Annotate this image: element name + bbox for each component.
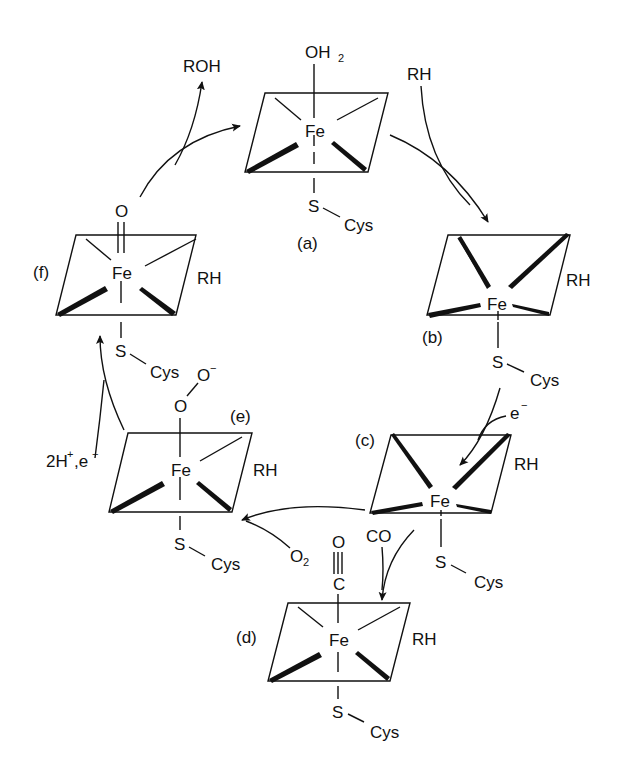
arrow-protons-in [95, 380, 104, 458]
state-label-d: (d) [236, 628, 257, 647]
svg-text:2: 2 [303, 556, 309, 568]
sulfur-label: S [174, 535, 185, 554]
substrate-label: RH [566, 271, 591, 290]
cys-label: Cys [370, 723, 399, 742]
state-d-co-complex: O C Fe RH (d) S Cys [236, 533, 437, 742]
state-label-a: (a) [297, 234, 318, 253]
arrow-co-in [382, 547, 383, 590]
arrow-electron-in [478, 416, 506, 440]
cys-label: Cys [150, 363, 179, 382]
cys-label: Cys [474, 573, 503, 592]
carbonyl-o-label: O [332, 533, 345, 552]
product-roh: ROH [183, 57, 221, 76]
arrow-c-to-e [242, 507, 365, 520]
reagent-electron: e [510, 404, 519, 423]
arrow-f-to-a [140, 126, 240, 197]
sulfur-label: S [308, 197, 319, 216]
svg-text:−: − [521, 399, 527, 411]
fe-label: Fe [305, 122, 325, 141]
p450-cycle-diagram: Fe OH 2 S Cys (a) Fe RH (b) S Cys Fe RH … [0, 0, 622, 778]
cys-label: Cys [344, 216, 373, 235]
oxygen-distal-label: O [197, 366, 210, 385]
fe-label: Fe [329, 631, 349, 650]
state-f-oxo: O Fe RH (f) S Cys [33, 202, 222, 382]
state-e-peroxo: O O − Fe RH (e) S Cys [109, 362, 278, 574]
state-b-substrate-bound: Fe RH (b) S Cys [422, 233, 591, 390]
svg-text:−: − [210, 362, 216, 374]
reagent-protons: 2H [46, 452, 68, 471]
sulfur-label: S [115, 342, 126, 361]
reagent-o2: O [290, 547, 303, 566]
svg-text:2: 2 [338, 52, 344, 64]
reagent-rh: RH [407, 65, 432, 84]
cys-label: Cys [211, 555, 240, 574]
sulfur-label: S [492, 353, 503, 372]
oxygen-proximal-label: O [174, 397, 187, 416]
axial-ligand-water: OH [305, 43, 331, 62]
state-label-c: (c) [355, 431, 375, 450]
state-a-resting: Fe OH 2 S Cys (a) [245, 43, 388, 253]
fe-label: Fe [171, 461, 191, 480]
cys-label: Cys [530, 371, 559, 390]
arrow-b-to-c [460, 388, 500, 465]
fe-label: Fe [430, 492, 450, 511]
arrow-roh-out [175, 82, 202, 165]
substrate-label: RH [412, 630, 437, 649]
arrow-o2-in [246, 521, 290, 548]
svg-text:,e: ,e [74, 452, 88, 471]
substrate-label: RH [514, 455, 539, 474]
arrow-a-to-b [390, 135, 488, 222]
fe-label: Fe [112, 264, 132, 283]
state-label-b: (b) [422, 328, 443, 347]
svg-text:+: + [67, 448, 73, 460]
carbonyl-c-label: C [333, 575, 345, 594]
reagent-co: CO [366, 527, 392, 546]
svg-text:−: − [92, 448, 98, 460]
state-label-e: (e) [230, 407, 251, 426]
sulfur-label: S [332, 703, 343, 722]
oxo-label: O [115, 202, 128, 221]
sulfur-label: S [435, 553, 446, 572]
state-label-f: (f) [33, 263, 49, 282]
substrate-label: RH [253, 461, 278, 480]
fe-label: Fe [487, 295, 507, 314]
substrate-label: RH [197, 269, 222, 288]
